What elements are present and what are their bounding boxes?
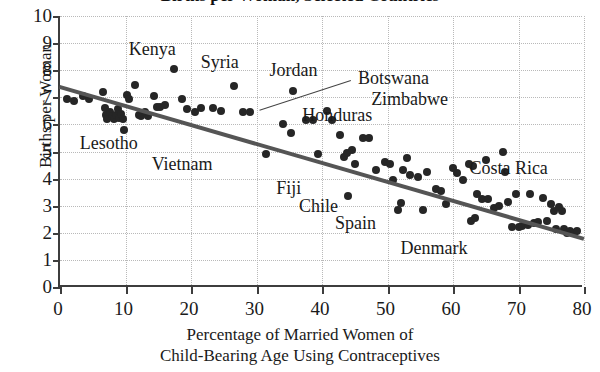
y-axis-tick [53,206,60,208]
data-point [406,171,414,179]
data-point [558,207,566,215]
x-axis-tick [126,287,128,294]
data-point [63,95,71,103]
data-point [99,88,107,96]
x-axis-tick [519,287,521,294]
annotation-lesotho: Lesotho [80,134,138,152]
gridline-horizontal [60,179,582,180]
gridline-horizontal [60,260,582,261]
data-point [403,154,411,162]
y-axis-tick-label: 8 [22,60,52,79]
gridline-vertical [388,16,389,285]
annotation-denmark: Denmark [401,239,468,257]
annotation-spain: Spain [335,214,376,232]
x-axis-tick [60,287,62,294]
y-axis-tick [53,97,60,99]
data-point [459,176,467,184]
x-axis-tick-label: 70 [497,299,537,318]
annotation-costa-rica: Costa Rica [469,159,548,177]
y-axis-tick-label: 2 [22,223,52,242]
data-point [119,115,127,123]
data-point [197,104,205,112]
data-point [484,195,492,203]
y-axis-tick [53,152,60,154]
data-point [230,82,238,90]
annotation-chile: Chile [299,197,338,215]
data-point [437,187,445,195]
data-point [495,202,503,210]
chart-title: Births per Woman, Selected Countries [0,0,600,6]
plot-border-right [584,16,585,285]
data-point [499,148,507,156]
y-axis-tick-label: 4 [22,169,52,188]
data-point [161,101,169,109]
x-axis-tick-label: 0 [38,299,78,318]
data-point [314,150,322,158]
data-point [372,166,380,174]
x-axis-tick-label: 80 [562,299,600,318]
data-point [279,120,287,128]
x-axis-tick [388,287,390,294]
x-axis-tick-label: 60 [431,299,471,318]
y-axis-tick [53,260,60,262]
x-axis-tick-label: 40 [300,299,340,318]
gridline-horizontal [60,97,582,98]
x-axis-title: Percentage of Married Women of Child-Bea… [0,324,600,366]
data-point [246,108,254,116]
annotation-kenya: Kenya [129,40,176,58]
data-point [125,95,133,103]
annotation-honduras: Honduras [302,106,372,124]
data-point [131,81,139,89]
data-point [365,134,373,142]
data-point [471,214,479,222]
data-point [289,87,297,95]
data-point [170,65,178,73]
x-axis-tick [322,287,324,294]
data-point [183,105,191,113]
y-axis-tick-label: 10 [22,6,52,25]
annotation-jordan: Jordan [270,61,318,79]
y-axis-tick-label: 9 [22,33,52,52]
data-point [423,168,431,176]
data-point [351,160,359,168]
data-point [336,131,344,139]
gridline-horizontal [60,70,582,71]
data-point [262,150,270,158]
data-point [70,97,78,105]
annotation-fiji: Fiji [276,179,301,197]
y-axis-tick [53,287,60,289]
x-axis-tick [191,287,193,294]
y-axis-tick [53,179,60,181]
x-axis-tick-label: 30 [235,299,275,318]
y-axis-tick-label: 1 [22,250,52,269]
data-point [526,190,534,198]
x-axis-tick-label: 10 [104,299,144,318]
data-point [287,129,295,137]
y-axis-tick [53,124,60,126]
x-axis-tick-label: 20 [169,299,209,318]
y-axis-tick-label: 0 [22,277,52,296]
plot-border-top [60,16,582,17]
gridline-vertical [322,16,323,285]
data-point [397,199,405,207]
data-point [539,194,547,202]
data-point [512,190,520,198]
data-point [543,217,551,225]
data-point [209,104,217,112]
x-axis-tick [584,287,586,294]
annotation-botswana: Botswana [358,69,429,87]
data-point [386,160,394,168]
x-axis-tick [257,287,259,294]
y-axis-tick [53,43,60,45]
gridline-vertical [257,16,258,285]
data-point [178,95,186,103]
data-point [150,92,158,100]
data-point [348,146,356,154]
gridline-horizontal [60,233,582,234]
chart-root: Births per Woman, Selected Countries Bir… [0,0,600,372]
data-point [344,192,352,200]
y-axis-tick-label: 3 [22,196,52,215]
y-axis-tick [53,233,60,235]
gridline-vertical [519,16,520,285]
y-axis-tick-label: 5 [22,142,52,161]
